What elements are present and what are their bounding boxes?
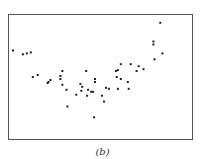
data-point [81, 86, 83, 88]
data-point [85, 70, 87, 72]
data-point [120, 63, 122, 65]
data-point [152, 44, 154, 46]
data-point [30, 51, 32, 53]
data-point [48, 81, 50, 83]
data-point [79, 83, 81, 85]
data-point [59, 75, 61, 77]
data-point [117, 88, 119, 90]
figure-caption: (b) [0, 146, 205, 157]
data-point [105, 87, 107, 89]
data-point [50, 79, 52, 81]
data-point [117, 69, 119, 71]
scatter-plot-frame [8, 14, 193, 140]
data-point [37, 74, 39, 76]
data-point [92, 91, 94, 93]
data-point [93, 116, 95, 118]
data-point [75, 94, 77, 96]
data-point [32, 76, 34, 78]
data-point [115, 70, 117, 72]
data-point [120, 78, 122, 80]
data-point [101, 95, 103, 97]
data-point [130, 63, 132, 65]
data-point [80, 90, 82, 92]
data-point [94, 78, 96, 80]
data-point [61, 84, 63, 86]
data-point [152, 41, 154, 43]
data-point [127, 81, 129, 83]
data-point [61, 70, 63, 72]
data-point [128, 88, 130, 90]
data-point [138, 65, 140, 67]
data-point [136, 70, 138, 72]
data-point [26, 52, 28, 54]
data-point [59, 78, 61, 80]
data-point [22, 53, 24, 55]
data-point [154, 58, 156, 60]
data-point [90, 91, 92, 93]
data-point [143, 68, 145, 70]
data-point [161, 52, 163, 54]
caption-text: (b) [95, 146, 109, 157]
data-point [108, 88, 110, 90]
data-point [66, 106, 68, 108]
data-point [103, 101, 105, 103]
data-point [12, 50, 14, 52]
data-point [159, 22, 161, 24]
data-point [66, 89, 68, 91]
data-point [116, 76, 118, 78]
data-point [86, 95, 88, 97]
data-point [87, 89, 89, 91]
scatter-plot-area [9, 15, 192, 139]
data-point [94, 81, 96, 83]
